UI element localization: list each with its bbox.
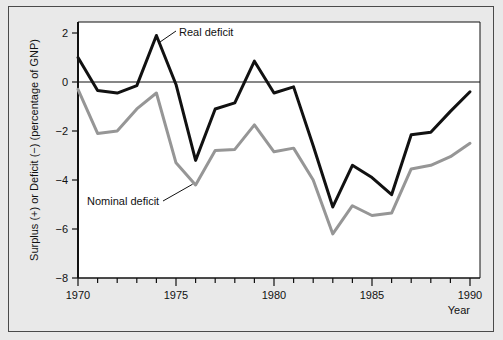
x-axis-title: Year	[448, 304, 471, 316]
y-tick-label--2: −2	[55, 125, 68, 137]
x-tick-label-1990: 1990	[458, 289, 482, 301]
y-tick-label--4: −4	[55, 174, 68, 186]
x-tick-label-1975: 1975	[164, 289, 188, 301]
x-tick-label-1980: 1980	[262, 289, 286, 301]
y-axis-ticks: 20−2−4−6−8	[55, 27, 78, 284]
x-axis-tick-labels: 19701975198019851990	[66, 289, 482, 301]
deficit-line-chart: 20−2−4−6−8 19701975198019851990 Real def…	[0, 0, 503, 340]
y-axis-title: Surplus (+) or Deficit (−) (percentage o…	[28, 39, 40, 261]
y-tick-label--8: −8	[55, 272, 68, 284]
x-axis-ticks	[78, 278, 470, 286]
y-tick-label-0: 0	[62, 76, 68, 88]
nominal-deficit-label: Nominal deficit	[87, 195, 159, 207]
x-tick-label-1970: 1970	[66, 289, 90, 301]
x-tick-label-1985: 1985	[360, 289, 384, 301]
figure-container: 20−2−4−6−8 19701975198019851990 Real def…	[0, 0, 503, 340]
real-deficit-label: Real deficit	[179, 26, 233, 38]
y-tick-label-2: 2	[62, 27, 68, 39]
y-tick-label--6: −6	[55, 223, 68, 235]
